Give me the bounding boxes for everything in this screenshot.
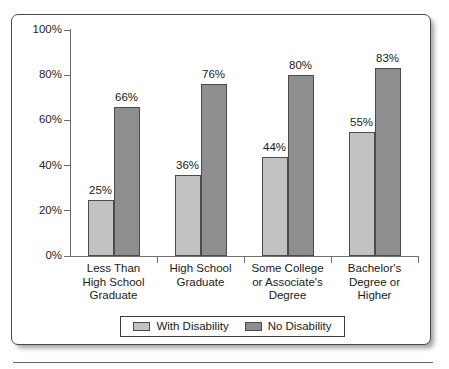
- legend-swatch-icon-no-disability: [245, 322, 262, 331]
- x-axis-category-label-3: Some Collegeor Associate'sDegree: [238, 262, 338, 303]
- x-axis-category-label-2: High SchoolGraduate: [151, 262, 251, 289]
- y-axis-tick: [64, 120, 70, 121]
- bar-value-label-with-disability-4: 55%: [342, 117, 382, 129]
- y-axis-tick-label: 60%: [12, 114, 62, 126]
- bar-with-disability-2: [175, 175, 201, 256]
- x-axis-category-label-line: Some College: [238, 262, 338, 276]
- bar-with-disability-4: [349, 132, 375, 256]
- x-axis-category-label-line: High School: [64, 276, 164, 290]
- y-axis-tick-label: 0%: [12, 250, 62, 262]
- chart-page: 0%20%40%60%80%100% 25%66%36%76%44%80%55%…: [0, 0, 449, 369]
- y-axis-tick-label: 20%: [12, 205, 62, 217]
- x-axis-category-label-1: Less ThanHigh SchoolGraduate: [64, 262, 164, 303]
- x-axis-category-label-line: High School: [151, 262, 251, 276]
- y-axis-tick-label-text: 60%: [16, 114, 62, 126]
- legend-item-with-disability: With Disability: [133, 321, 228, 333]
- y-axis-tick: [64, 210, 70, 211]
- footer-divider: [13, 362, 433, 363]
- y-axis-tick-label-text: 20%: [16, 205, 62, 217]
- y-axis-tick-label-text: 80%: [16, 69, 62, 81]
- y-axis-tick-label: 40%: [12, 160, 62, 172]
- y-axis-tick: [64, 75, 70, 76]
- bar-value-label-no-disability-4: 83%: [368, 53, 408, 65]
- x-axis-category-label-line: Graduate: [64, 289, 164, 303]
- y-axis-line: [70, 29, 71, 257]
- x-axis-category-label-line: Graduate: [151, 276, 251, 290]
- bar-value-label-no-disability-2: 76%: [194, 69, 234, 81]
- legend-swatch-icon-with-disability: [133, 322, 150, 331]
- legend-label-no-disability: No Disability: [268, 321, 332, 333]
- y-axis-tick-label-text: 40%: [16, 160, 62, 172]
- chart-legend: With Disability No Disability: [120, 316, 345, 337]
- y-axis-tick-label: 100%: [12, 24, 62, 36]
- y-axis-tick-label: 80%: [12, 69, 62, 81]
- bar-value-label-with-disability-3: 44%: [255, 142, 295, 154]
- x-axis-category-label-line: Degree or: [325, 276, 425, 290]
- bar-value-label-no-disability-1: 66%: [107, 92, 147, 104]
- legend-item-no-disability: No Disability: [245, 321, 332, 333]
- bar-value-label-with-disability-2: 36%: [168, 160, 208, 172]
- y-axis-tick: [64, 30, 70, 31]
- y-axis-tick: [64, 256, 70, 257]
- plot-area: 0%20%40%60%80%100% 25%66%36%76%44%80%55%…: [0, 0, 449, 369]
- x-axis-category-label-line: Degree: [238, 289, 338, 303]
- y-axis-tick-label-text: 0%: [16, 250, 62, 262]
- legend-label-with-disability: With Disability: [156, 321, 228, 333]
- bar-no-disability-1: [114, 107, 140, 256]
- bar-no-disability-4: [375, 68, 401, 256]
- bar-with-disability-3: [262, 157, 288, 256]
- y-axis-tick-label-text: 100%: [16, 24, 62, 36]
- bar-value-label-no-disability-3: 80%: [281, 60, 321, 72]
- x-axis-category-label-line: Higher: [325, 289, 425, 303]
- x-axis-category-label-4: Bachelor'sDegree orHigher: [325, 262, 425, 303]
- x-axis-category-label-line: or Associate's: [238, 276, 338, 290]
- x-axis-category-label-line: Bachelor's: [325, 262, 425, 276]
- bar-with-disability-1: [88, 200, 114, 257]
- bar-no-disability-3: [288, 75, 314, 256]
- x-axis-category-label-line: Less Than: [64, 262, 164, 276]
- bar-value-label-with-disability-1: 25%: [81, 185, 121, 197]
- y-axis-tick: [64, 165, 70, 166]
